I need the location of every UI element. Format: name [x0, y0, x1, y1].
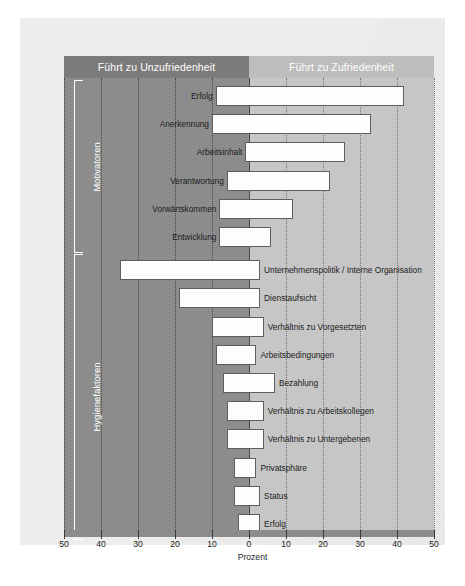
bar [212, 114, 371, 134]
x-tick [434, 530, 435, 539]
bar [227, 401, 264, 421]
gridline [434, 78, 435, 530]
gridline [138, 78, 139, 530]
gridline [397, 78, 398, 530]
header-satisfaction: Führt zu Zufriedenheit [249, 56, 434, 78]
header-dissatisfaction: Führt zu Unzufriedenheit [64, 56, 249, 78]
x-tick-label: 50 [59, 539, 69, 549]
bar-label: Arbeitsbedingungen [260, 345, 334, 365]
x-tick [175, 530, 176, 539]
figure-canvas: Führt zu Unzufriedenheit Führt zu Zufrie… [0, 0, 465, 586]
bar [219, 199, 293, 219]
bar-label: Anerkennung [160, 114, 209, 134]
bar-label: Verhältnis zu Untergebenen [268, 429, 370, 449]
bar-label: Erfolg [191, 86, 213, 106]
bar [219, 227, 271, 247]
bar-label: Bezahlung [279, 373, 318, 393]
x-tick-label: 10 [281, 539, 291, 549]
gridline [175, 78, 176, 530]
x-tick [64, 530, 65, 539]
bar-label: Verhältnis zu Vorgesetzten [268, 317, 366, 337]
group-label: Hygienefaktoren [91, 363, 102, 432]
bar-label: Verhältnis zu Arbeitskollegen [268, 401, 374, 421]
bar-label: Privatsphäre [260, 458, 307, 478]
bar-label: Vorwärtskommen [152, 199, 216, 219]
bar [216, 86, 405, 106]
x-tick [360, 530, 361, 539]
x-tick [212, 530, 213, 539]
bar [216, 345, 257, 365]
x-axis-title: Prozent [20, 552, 465, 562]
x-tick-label: 20 [318, 539, 328, 549]
x-tick-label: 30 [133, 539, 143, 549]
plot-area: Führt zu Unzufriedenheit Führt zu Zufrie… [64, 56, 434, 530]
bar [234, 486, 260, 506]
x-tick [397, 530, 398, 539]
x-tick [101, 530, 102, 539]
bar-label: Dienstaufsicht [264, 288, 316, 308]
bar [227, 171, 331, 191]
x-tick-label: 40 [392, 539, 402, 549]
x-tick [138, 530, 139, 539]
x-tick-label: 0 [247, 539, 252, 549]
group-bracket [74, 80, 83, 253]
bar-label: Unternehmenspolitik / Interne Organisati… [264, 260, 422, 280]
x-tick-label: 40 [96, 539, 106, 549]
group-label: Motivatoren [91, 142, 102, 192]
bar [223, 373, 275, 393]
bar-label: Entwicklung [172, 227, 216, 247]
bar-label: Arbeitsinhalt [197, 142, 243, 162]
group-bracket [74, 254, 83, 540]
x-tick [323, 530, 324, 539]
bar [120, 260, 261, 280]
bar [179, 288, 260, 308]
chart-card: Führt zu Unzufriedenheit Führt zu Zufrie… [20, 18, 445, 545]
bar [212, 317, 264, 337]
bar [227, 429, 264, 449]
bar [234, 458, 256, 478]
x-tick-label: 30 [355, 539, 365, 549]
x-tick-label: 10 [207, 539, 217, 549]
x-tick-label: 50 [429, 539, 439, 549]
x-tick [249, 530, 250, 539]
gridline [360, 78, 361, 530]
x-tick [286, 530, 287, 539]
bar-label: Verantwortung [170, 171, 224, 191]
gridline [64, 78, 65, 530]
x-tick-label: 20 [170, 539, 180, 549]
bar [245, 142, 345, 162]
bar-label: Status [264, 486, 288, 506]
